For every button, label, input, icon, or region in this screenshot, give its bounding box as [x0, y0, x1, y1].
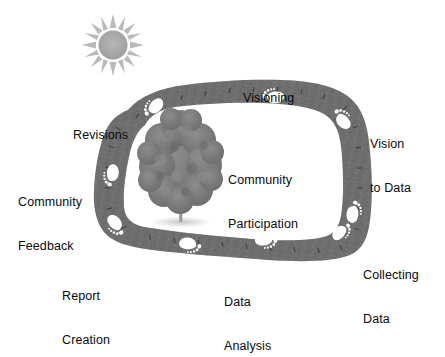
- stage-label-collecting-data: Collecting Data: [363, 239, 419, 355]
- stage-line: Creation: [62, 333, 110, 348]
- stage-line: to Data: [370, 181, 411, 196]
- stage-line: Vision: [370, 137, 411, 152]
- center-label-community-participation: Community Participation: [228, 144, 298, 260]
- stage-line: Data: [363, 312, 419, 327]
- tree-icon: [137, 108, 224, 228]
- center-line: Community: [228, 173, 298, 188]
- stage-line: Collecting: [363, 268, 419, 283]
- stage-label-revisions: Revisions: [73, 99, 128, 172]
- stage-label-data-analysis: Data Analysis: [224, 266, 271, 357]
- stage-label-community-feedback: Community Feedback: [18, 166, 82, 282]
- stage-line: Data: [224, 295, 271, 310]
- stage-label-vision-to-data: Vision to Data: [370, 108, 411, 224]
- stage-line: Revisions: [73, 128, 128, 143]
- stage-line: Feedback: [18, 239, 82, 254]
- center-line: Participation: [228, 217, 298, 232]
- stage-line: Visioning: [243, 91, 294, 106]
- stage-line: Analysis: [224, 339, 271, 354]
- stage-line: Report: [62, 289, 110, 304]
- stage-label-visioning: Visioning: [243, 62, 294, 135]
- sun-icon: [82, 14, 144, 76]
- stage-line: Community: [18, 195, 82, 210]
